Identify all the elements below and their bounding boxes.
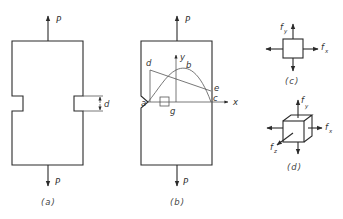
stress-y-subscript: y [304, 103, 309, 110]
point-label-g: g [170, 106, 176, 116]
figure-c: f y f x (c) [266, 22, 329, 86]
x-axis-label: x [232, 97, 239, 107]
stress-element-square [283, 39, 303, 58]
point-label-c: c [213, 93, 218, 103]
stress-y-subscript: y [283, 28, 288, 35]
figure-b: P P x y d b e c a g (b) [141, 15, 239, 207]
load-label-bottom: P [55, 177, 61, 187]
diagram-canvas: P P d (a) P P x y d b e c a g (b) [0, 0, 343, 219]
cube-back-edges [283, 115, 312, 142]
caption-a: (a) [41, 197, 56, 207]
load-label-bottom: P [183, 177, 189, 187]
load-label-top: P [185, 15, 191, 25]
point-label-b: b [186, 60, 191, 70]
stress-curve-abc [148, 68, 211, 102]
v-notched-plate-outline [141, 41, 212, 165]
figure-d: f y f x f z (d) [267, 95, 333, 172]
dimension-label-d: d [104, 99, 110, 109]
stress-z-subscript: z [273, 148, 277, 154]
notched-plate-outline [12, 41, 83, 165]
stress-x-subscript: x [324, 48, 329, 54]
point-label-d: d [146, 58, 152, 68]
y-axis-label: y [179, 52, 186, 62]
caption-d: (d) [287, 162, 302, 172]
stress-x-subscript: x [328, 128, 333, 134]
arrow-diagonal-z-icon [277, 133, 293, 145]
point-label-a: a [141, 98, 146, 108]
point-label-e: e [214, 83, 219, 93]
cube-front-face [283, 121, 304, 142]
caption-b: (b) [170, 197, 185, 207]
figure-a: P P d (a) [12, 15, 110, 207]
caption-c: (c) [285, 76, 299, 86]
element-g-square [160, 97, 169, 106]
load-label-top: P [56, 15, 62, 25]
